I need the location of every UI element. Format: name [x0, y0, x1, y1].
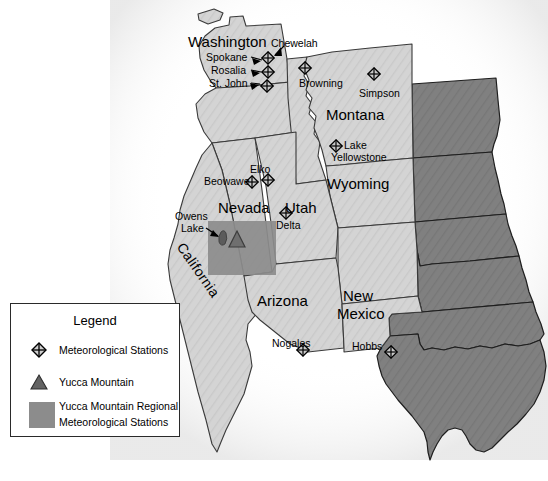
- owens-lake-label-line2: Lake: [181, 223, 204, 234]
- station-label-hobbs: Hobbs: [352, 341, 382, 352]
- station-label-nogales: Nogales: [272, 338, 311, 349]
- yucca-regional-box: [208, 221, 276, 275]
- station-label-chewelah: Chewelah: [271, 38, 318, 49]
- state-label-nevada: Nevada: [218, 200, 270, 216]
- legend-label-regional-line1: Yucca Mountain Regional: [59, 399, 178, 414]
- station-label-lake: Lake: [344, 140, 367, 151]
- diamond-cross-icon: [29, 340, 49, 364]
- map-figure: Washington Montana Wyoming Nevada Utah A…: [0, 0, 548, 481]
- legend-box: Legend Meteorological Stations Yucca Mou…: [10, 303, 180, 437]
- legend-label-regional-line2: Meteorological Stations: [59, 415, 168, 430]
- triangle-icon: [29, 372, 49, 396]
- state-label-washington: Washington: [188, 34, 267, 50]
- state-label-montana: Montana: [326, 107, 384, 123]
- state-label-arizona: Arizona: [257, 293, 308, 309]
- legend-label-stations: Meteorological Stations: [59, 343, 168, 358]
- state-wyoming: [326, 158, 415, 228]
- station-label-st-john: St. John: [209, 78, 248, 89]
- gray-swatch-icon: [29, 402, 55, 428]
- station-label-spokane: Spokane: [206, 52, 247, 63]
- station-label-elko: Elko: [250, 164, 270, 175]
- station-label-rosalia: Rosalia: [211, 65, 246, 76]
- legend-label-yucca-mountain: Yucca Mountain: [59, 375, 134, 390]
- state-south-dakota: [413, 152, 506, 222]
- station-label-beowawe: Beowawe: [204, 176, 250, 187]
- state-label-wyoming: Wyoming: [327, 176, 389, 192]
- station-label-delta: Delta: [276, 220, 301, 231]
- station-label-yellowstone: Yellowstone: [331, 152, 387, 163]
- state-north-dakota: [412, 78, 500, 158]
- state-label-new-mexico-line1: New: [343, 288, 373, 304]
- station-label-simpson: Simpson: [359, 88, 400, 99]
- owens-lake-label-line1: Owens: [175, 211, 208, 222]
- state-label-new-mexico-line2: Mexico: [337, 306, 385, 322]
- station-label-browning: Browning: [299, 78, 343, 89]
- owens-lake-shape: [219, 231, 227, 245]
- legend-title: Legend: [11, 313, 179, 328]
- state-label-utah: Utah: [285, 200, 317, 216]
